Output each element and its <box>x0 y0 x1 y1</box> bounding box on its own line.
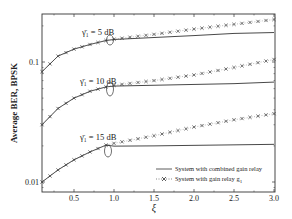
y-axis-title: Average BER, BPSK <box>9 63 19 143</box>
data-curves <box>40 18 275 184</box>
solid-curve <box>42 82 274 125</box>
cross-marker <box>240 64 243 67</box>
cross-marker <box>168 31 171 34</box>
x-axis-title: ξ <box>152 202 157 214</box>
x-tick-label: 3.0 <box>269 194 279 203</box>
cross-marker <box>72 158 75 161</box>
cross-marker <box>64 163 67 166</box>
dotted-curve <box>42 59 274 124</box>
y-tick-label: 0.1 <box>29 58 39 67</box>
curve-label-10db: γ̄₁ = 10 dB <box>79 76 117 86</box>
x-tick-label: 1.0 <box>109 194 119 203</box>
cross-marker <box>64 102 67 105</box>
x-tick-label: 0.5 <box>69 194 79 203</box>
curve-label-15db: γ̄₁ = 15 dB <box>79 132 117 142</box>
curve-label-5db: γ̄₁ = 5 dB <box>81 27 114 37</box>
cross-marker <box>176 76 179 79</box>
legend: System with combined gain relay System w… <box>156 165 263 184</box>
dotted-curve <box>42 20 274 72</box>
y-tick-label: 0.01 <box>25 178 39 187</box>
x-tick-label: 2.5 <box>229 194 239 203</box>
ber-chart: 0.51.01.52.02.53.0 0.10.01 Average BER, … <box>0 0 292 219</box>
legend-cross-label: System with gain relay g1 <box>175 175 243 184</box>
y-axis-ticks: 0.10.01 <box>25 26 275 188</box>
ellipse-15db <box>105 145 112 157</box>
x-tick-label: 2.0 <box>189 194 199 203</box>
legend-solid-label: System with combined gain relay <box>175 165 263 172</box>
solid-curve <box>42 33 274 72</box>
legend-cross-marker <box>162 177 166 181</box>
x-axis-ticks: 0.51.01.52.02.53.0 <box>54 14 279 203</box>
cross-marker <box>144 136 147 139</box>
